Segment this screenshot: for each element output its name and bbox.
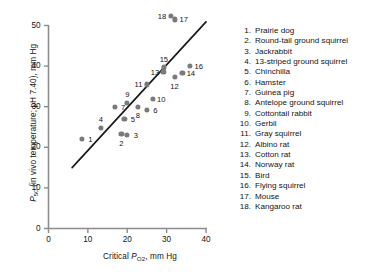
legend-item-number: 4.	[236, 57, 255, 66]
data-point-label: 17	[180, 15, 188, 24]
legend-item-number: 13.	[236, 150, 255, 159]
x-tick-label: 10	[78, 235, 98, 244]
data-point-label: 13	[151, 68, 159, 77]
legend-item: 17.Mouse	[236, 192, 364, 202]
x-tick-label: 0	[39, 235, 59, 244]
legend-item-label: Flying squirrel	[255, 181, 364, 190]
legend-item-label: Mouse	[255, 192, 364, 201]
legend-item-label: 13-striped ground squirrel	[255, 57, 364, 66]
species-legend: 1.Prairie dog2.Round-tail ground squirre…	[236, 26, 364, 212]
data-point-label: 4	[99, 115, 103, 124]
legend-item-label: Jackrabbit	[255, 47, 364, 56]
legend-item-label: Guinea pig	[255, 88, 364, 97]
legend-item: 4.13-striped ground squirrel	[236, 57, 364, 67]
x-axis-title-suffix: , mm Hg	[145, 252, 177, 261]
legend-item-label: Albino rat	[255, 140, 364, 149]
legend-item-number: 12.	[236, 140, 255, 149]
y-tick-label: 0	[21, 224, 41, 233]
x-tick-label: 20	[117, 235, 137, 244]
plot-region: 01020304050010203040 1234567891011121314…	[0, 0, 228, 278]
legend-item: 8.Antelope ground squirrel	[236, 98, 364, 108]
legend-item-number: 6.	[236, 78, 255, 87]
data-point-label: 1	[88, 135, 92, 144]
legend-item-number: 8.	[236, 98, 255, 107]
data-point-label: 11	[134, 80, 142, 89]
legend-item-number: 10.	[236, 119, 255, 128]
legend-item: 15.Bird	[236, 171, 364, 181]
data-point-label: 2	[119, 138, 123, 147]
legend-item: 12.Albino rat	[236, 140, 364, 150]
legend-item-label: Chinchilla	[255, 67, 364, 76]
legend-item-label: Cottontail rabbit	[255, 109, 364, 118]
trend-line	[72, 22, 206, 168]
data-point-label: 16	[195, 62, 203, 71]
legend-item-number: 9.	[236, 109, 255, 118]
legend-item-label: Norway rat	[255, 160, 364, 169]
legend-item: 16.Flying squirrel	[236, 181, 364, 191]
legend-item-label: Cotton rat	[255, 150, 364, 159]
legend-item-number: 16.	[236, 181, 255, 190]
data-point-label: 3	[134, 131, 138, 140]
legend-item: 18.Kangaroo rat	[236, 202, 364, 212]
x-tick-label: 40	[196, 235, 216, 244]
legend-item-number: 15.	[236, 171, 255, 180]
legend-item-number: 5.	[236, 67, 255, 76]
legend-item: 9.Cottontail rabbit	[236, 109, 364, 119]
legend-item-number: 11.	[236, 129, 255, 138]
legend-item-label: Kangaroo rat	[255, 202, 364, 211]
legend-item: 6.Hamster	[236, 78, 364, 88]
data-point-label: 10	[157, 94, 165, 103]
legend-item: 10.Gerbil	[236, 119, 364, 129]
legend-item-label: Bird	[255, 171, 364, 180]
x-tick-label: 30	[157, 235, 177, 244]
legend-item-label: Hamster	[255, 78, 364, 87]
legend-item-label: Antelope ground squirrel	[255, 98, 364, 107]
legend-item-number: 17.	[236, 192, 255, 201]
data-point-label: 15	[160, 54, 168, 63]
legend-item-number: 1.	[236, 26, 255, 35]
data-point-label: 6	[153, 105, 157, 114]
legend-item: 3.Jackrabbit	[236, 47, 364, 57]
x-axis-title: Critical PO2, mm Hg	[60, 252, 220, 262]
regression-line	[72, 22, 206, 168]
legend-item-label: Round-tail ground squirrel	[255, 36, 364, 45]
y-axis-title-suffix: (in vivo temperature; pH 7.40), mm Hg	[29, 44, 38, 189]
legend-item-number: 7.	[236, 88, 255, 97]
legend-item-number: 14.	[236, 160, 255, 169]
tick-marks	[44, 26, 206, 234]
data-point-label: 5	[131, 114, 135, 123]
legend-item: 7.Guinea pig	[236, 88, 364, 98]
legend-item: 1.Prairie dog	[236, 26, 364, 36]
data-point-label: 9	[125, 90, 129, 99]
data-point-label: 12	[170, 81, 178, 90]
data-point-label: 18	[158, 11, 166, 20]
legend-item-label: Gerbil	[255, 119, 364, 128]
legend-item: 5.Chinchilla	[236, 67, 364, 77]
legend-item: 14.Norway rat	[236, 160, 364, 170]
y-axis-symbol: P	[29, 196, 38, 202]
x-axis-title-prefix: Critical	[103, 252, 131, 261]
y-axis-subscript: 50	[32, 189, 39, 196]
axis-lines	[48, 25, 207, 229]
legend-item: 11.Gray squirrel	[236, 129, 364, 139]
legend-item-label: Gray squirrel	[255, 129, 364, 138]
legend-item-number: 18.	[236, 202, 255, 211]
legend-item-number: 2.	[236, 36, 255, 45]
data-point-label: 8	[136, 111, 140, 120]
legend-item: 13.Cotton rat	[236, 150, 364, 160]
legend-item-number: 3.	[236, 47, 255, 56]
legend-item: 2.Round-tail ground squirrel	[236, 36, 364, 46]
y-axis-title: P50 (in vivo temperature; pH 7.40), mm H…	[29, 23, 39, 223]
legend-item-label: Prairie dog	[255, 26, 364, 35]
figure-container: 01020304050010203040 1234567891011121314…	[0, 0, 365, 278]
